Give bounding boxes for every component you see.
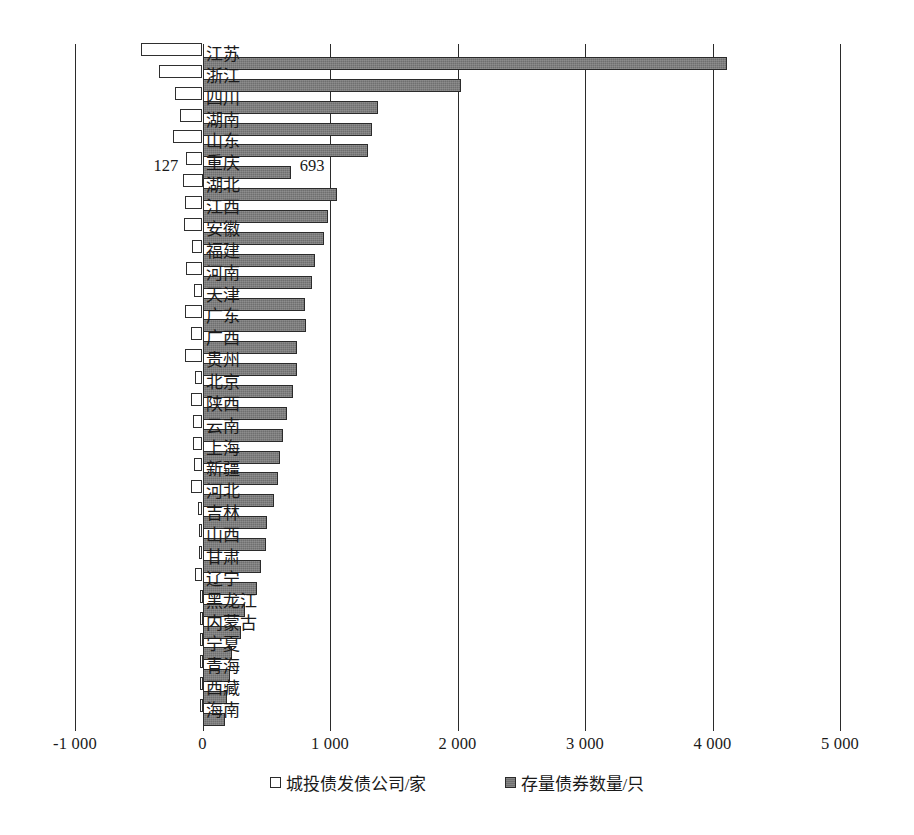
chart-row: 广东	[75, 306, 840, 328]
category-label: 贵州	[206, 352, 240, 369]
category-label: 云南	[206, 418, 240, 435]
bar-companies[interactable]	[194, 458, 202, 471]
bar-companies[interactable]	[173, 130, 203, 143]
x-axis-tick	[458, 722, 459, 731]
x-axis-tick	[840, 722, 841, 731]
category-label: 吉林	[206, 505, 240, 522]
category-label: 天津	[206, 287, 240, 304]
bar-companies[interactable]	[198, 502, 203, 515]
chart-row: 广西	[75, 328, 840, 350]
chart-row: 海南	[75, 700, 840, 722]
category-label: 甘肃	[206, 549, 240, 566]
bar-companies[interactable]	[184, 218, 203, 231]
bar-companies[interactable]	[200, 590, 203, 603]
bar-companies[interactable]	[185, 305, 203, 318]
bar-companies[interactable]	[185, 196, 203, 209]
bar-companies[interactable]	[194, 284, 203, 297]
bar-companies[interactable]	[191, 393, 203, 406]
bar-companies[interactable]	[200, 612, 203, 625]
x-axis-tick-label: 5 000	[821, 734, 859, 754]
chart-row: 四川	[75, 88, 840, 110]
category-label: 新疆	[206, 461, 240, 478]
category-label: 福建	[206, 243, 240, 260]
chart-row: 新疆	[75, 460, 840, 482]
bar-companies[interactable]	[186, 262, 203, 275]
bar-companies[interactable]	[195, 568, 202, 581]
chart-row: 浙江	[75, 66, 840, 88]
category-label: 江西	[206, 199, 240, 216]
bar-companies[interactable]	[193, 437, 202, 450]
bar-companies[interactable]	[185, 349, 202, 362]
data-label-bonds: 693	[300, 158, 325, 174]
data-label-companies: 127	[154, 158, 179, 174]
bar-companies[interactable]	[200, 699, 203, 712]
category-label: 黑龙江	[206, 593, 257, 610]
category-label: 西藏	[206, 680, 240, 697]
category-label: 辽宁	[206, 571, 240, 588]
chart-row: 辽宁	[75, 569, 840, 591]
chart-row: 内蒙古	[75, 613, 840, 635]
x-axis-tick	[713, 722, 714, 731]
chart-row: 河南	[75, 263, 840, 285]
chart-row: 上海	[75, 438, 840, 460]
bar-companies[interactable]	[191, 327, 203, 340]
category-label: 青海	[206, 658, 240, 675]
category-label: 上海	[206, 440, 240, 457]
chart-row: 湖北	[75, 175, 840, 197]
chart-row: 西藏	[75, 678, 840, 700]
legend-entry[interactable]: 城投债发债公司/家	[270, 770, 427, 795]
bar-companies[interactable]	[199, 524, 203, 537]
bar-companies[interactable]	[191, 480, 202, 493]
legend-swatch-icon	[270, 777, 281, 788]
x-axis-tick-label: -1 000	[53, 734, 97, 754]
chart-row: 河北	[75, 481, 840, 503]
x-axis-tick	[330, 722, 331, 731]
category-label: 四川	[206, 90, 240, 107]
plot-area: -1 00001 0002 0003 0004 0005 000江苏浙江四川湖南…	[75, 44, 840, 722]
chart-row: 北京	[75, 372, 840, 394]
category-label: 海南	[206, 702, 240, 719]
bar-companies[interactable]	[193, 415, 202, 428]
bar-companies[interactable]	[195, 371, 203, 384]
chart-row: 陕西	[75, 394, 840, 416]
chart-row: 贵州	[75, 350, 840, 372]
bar-companies[interactable]	[200, 677, 203, 690]
x-axis-tick	[585, 722, 586, 731]
legend-swatch-icon	[505, 777, 516, 788]
chart-row: 吉林	[75, 503, 840, 525]
category-label: 湖南	[206, 112, 240, 129]
bar-companies[interactable]	[200, 655, 203, 668]
category-label: 内蒙古	[206, 615, 257, 632]
bar-companies[interactable]	[175, 87, 202, 100]
category-label: 河北	[206, 483, 240, 500]
category-label: 重庆	[206, 155, 240, 172]
category-label: 浙江	[206, 68, 240, 85]
legend-entry[interactable]: 存量债券数量/只	[505, 770, 645, 795]
x-axis-tick-label: 4 000	[693, 734, 731, 754]
chart-row: 青海	[75, 656, 840, 678]
bar-companies[interactable]	[200, 633, 203, 646]
bar-companies[interactable]	[183, 174, 202, 187]
chart-row: 安徽	[75, 219, 840, 241]
bar-companies[interactable]	[141, 43, 203, 56]
x-axis-tick-label: 2 000	[438, 734, 476, 754]
chart-row: 山西	[75, 525, 840, 547]
bar-companies[interactable]	[199, 546, 203, 559]
chart-row: 黑龙江	[75, 591, 840, 613]
chart-row: 江苏	[75, 44, 840, 66]
chart-row: 福建	[75, 241, 840, 263]
bar-companies[interactable]	[180, 109, 203, 122]
category-label: 河南	[206, 265, 240, 282]
category-label: 安徽	[206, 221, 240, 238]
x-axis-tick-label: 0	[198, 734, 206, 754]
category-label: 广东	[206, 308, 240, 325]
chart-row: 甘肃	[75, 547, 840, 569]
category-label: 宁夏	[206, 636, 240, 653]
legend-label: 存量债券数量/只	[521, 770, 645, 795]
bar-companies[interactable]	[192, 240, 202, 253]
category-label: 北京	[206, 374, 240, 391]
bar-companies[interactable]	[186, 152, 202, 165]
x-axis-tick-label: 3 000	[566, 734, 604, 754]
bar-companies[interactable]	[159, 65, 202, 78]
x-axis-tick-label: 1 000	[311, 734, 349, 754]
